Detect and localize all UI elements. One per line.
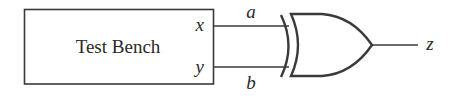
- xor-extra-arc: [281, 15, 289, 77]
- circuit-diagram: Test Bench x y a b z: [0, 0, 458, 98]
- wire-a-label: a: [246, 1, 256, 22]
- wire-b-label: b: [246, 72, 256, 93]
- output-z-label: z: [425, 33, 434, 54]
- test-bench-block: Test Bench x y: [25, 10, 214, 85]
- port-x-label: x: [195, 14, 205, 35]
- xor-gate: [281, 14, 372, 77]
- test-bench-label: Test Bench: [76, 36, 161, 57]
- port-y-label: y: [194, 56, 205, 77]
- xor-gate-body: [291, 14, 372, 76]
